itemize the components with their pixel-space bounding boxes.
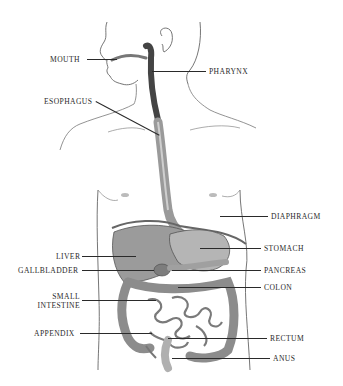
left-nipple: [121, 193, 129, 197]
label-appendix: APPENDIX: [34, 329, 75, 338]
torso-left: [97, 190, 99, 370]
gallbladder: [154, 264, 170, 276]
leader-rectum: [168, 338, 267, 339]
label-diaphragm: DIAPHRAGM: [271, 212, 321, 221]
leader-appendix: [80, 333, 152, 334]
leader-diaphragm: [220, 216, 268, 217]
leader-colon: [178, 287, 261, 288]
leader-pancreas: [172, 270, 261, 271]
neck-left: [134, 84, 136, 104]
neck-right: [188, 84, 256, 128]
pharynx: [146, 46, 158, 120]
label-small-intestine: SMALL INTESTINE: [34, 292, 80, 310]
torso-right: [240, 190, 250, 370]
left-shoulder: [60, 104, 134, 150]
small-intestine: [148, 297, 222, 348]
back-of-head: [187, 22, 201, 84]
leader-mouth: [87, 59, 117, 60]
label-colon: COLON: [264, 283, 292, 292]
label-esophagus: ESOPHAGUS: [44, 97, 92, 106]
clavicle-right: [190, 126, 240, 130]
esophagus: [158, 122, 184, 236]
pectoral-left: [98, 190, 118, 201]
oral-cavity: [112, 56, 146, 60]
leader-liver: [82, 256, 136, 257]
leader-stomach: [200, 248, 261, 249]
label-anus: ANUS: [273, 354, 295, 363]
pectoral-right: [222, 190, 240, 197]
label-pancreas: PANCREAS: [264, 266, 306, 275]
digestive-system-diagram: MOUTH PHARYNX ESOPHAGUS DIAPHRAGM STOMAC…: [0, 0, 343, 386]
leader-anus: [172, 358, 270, 359]
leader-gallbladder: [82, 270, 154, 271]
label-rectum: RECTUM: [270, 334, 304, 343]
label-liver: LIVER: [56, 252, 80, 261]
leader-pharynx: [152, 71, 206, 72]
label-stomach: STOMACH: [264, 244, 304, 253]
label-small-intestine-line1: SMALL: [34, 292, 80, 301]
leader-small-intestine: [82, 300, 156, 301]
ear-icon: [161, 28, 173, 52]
right-nipple: [209, 193, 217, 197]
clavicle-left: [108, 128, 145, 132]
face-outline: [100, 22, 138, 85]
label-pharynx: PHARYNX: [209, 67, 248, 76]
label-small-intestine-line2: INTESTINE: [34, 301, 80, 310]
label-mouth: MOUTH: [50, 55, 80, 64]
rectum: [165, 340, 168, 368]
label-gallbladder: GALLBLADDER: [18, 266, 79, 275]
